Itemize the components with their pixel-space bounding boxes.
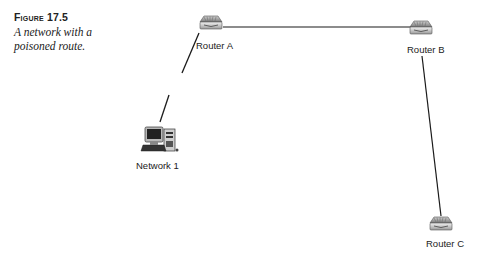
link-router-a-network-1-upper (182, 33, 199, 73)
router-c-label: Router C (426, 238, 464, 249)
computer-icon (141, 127, 179, 152)
router-c-icon (430, 217, 452, 230)
network-1-label: Network 1 (136, 160, 179, 171)
router-a-label: Router A (196, 40, 233, 51)
network-diagram (0, 0, 481, 257)
router-b-icon (410, 21, 432, 34)
link-router-b-router-c (422, 56, 441, 216)
router-b-label: Router B (407, 44, 445, 55)
router-a-icon (200, 16, 222, 29)
link-router-a-network-1-lower (160, 95, 169, 122)
